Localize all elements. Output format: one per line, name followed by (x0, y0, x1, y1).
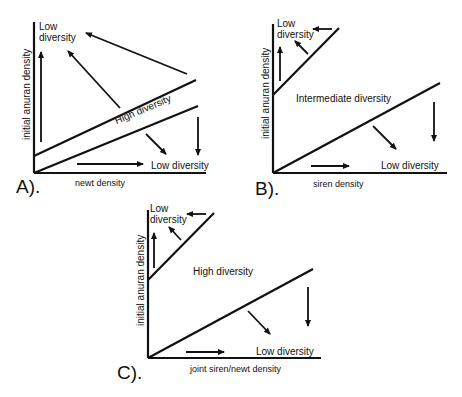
panel-a-top-left-label-line2: diversity (39, 32, 76, 43)
panel-c-middle-label: High diversity (193, 266, 253, 277)
panel-a-y-axis-label: initial anuran density (21, 49, 32, 140)
panel-c-graph (148, 210, 321, 358)
arrow-up-left (68, 51, 120, 108)
panel-c-x-axis-label: joint siren/newt density (190, 364, 281, 375)
panel-b-top-left-label-line2: diversity (277, 29, 314, 40)
panel-b-x-axis-label: siren density (313, 179, 364, 190)
arrow-down-right (248, 311, 270, 334)
panel-a-x-axis-label: newt density (75, 178, 125, 189)
panel-c-letter: C). (117, 363, 142, 383)
arrow-down-right (146, 134, 166, 154)
panel-c-bottom-right-label: Low diversity (256, 346, 314, 357)
panel-a-bottom-right-label: Low diversity (151, 160, 209, 171)
panel-b-middle-label: Intermediate diversity (296, 93, 391, 104)
panel-a-graph (34, 22, 206, 173)
panel-c-top-left-label-line1: Low (150, 203, 168, 214)
panel-b-letter: B). (255, 179, 279, 199)
lower-boundary-line (148, 269, 313, 358)
arrow-up-left (169, 227, 181, 240)
panel-b-y-axis-label: initial anuran density (260, 48, 271, 139)
arrow-up-left (295, 41, 308, 54)
panel-b-bottom-right-label: Low diversity (381, 160, 439, 171)
arrow-left-up (86, 33, 187, 74)
panel-c-y-axis-label: initial anuran density (135, 235, 146, 326)
panel-a-top-left-label-line1: Low (39, 21, 57, 32)
diagram-canvas (0, 0, 462, 397)
arrow-down-right (373, 126, 396, 149)
panel-b-top-left-label-line1: Low (277, 18, 295, 29)
panel-a-letter: A). (16, 177, 40, 197)
panel-c-top-left-label-line2: diversity (150, 214, 187, 225)
